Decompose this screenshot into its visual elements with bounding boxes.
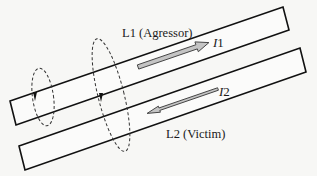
- line-l1-label: L1 (Agressor): [122, 26, 192, 40]
- current-i1-label: I1: [212, 35, 224, 50]
- crosstalk-diagram: L1 (Agressor) L2 (Victim) I1 I2: [0, 0, 317, 176]
- line-l2-label: L2 (Victim): [166, 127, 225, 141]
- triangle-marker-icon: [99, 93, 103, 102]
- current-i2-label: I2: [218, 84, 230, 99]
